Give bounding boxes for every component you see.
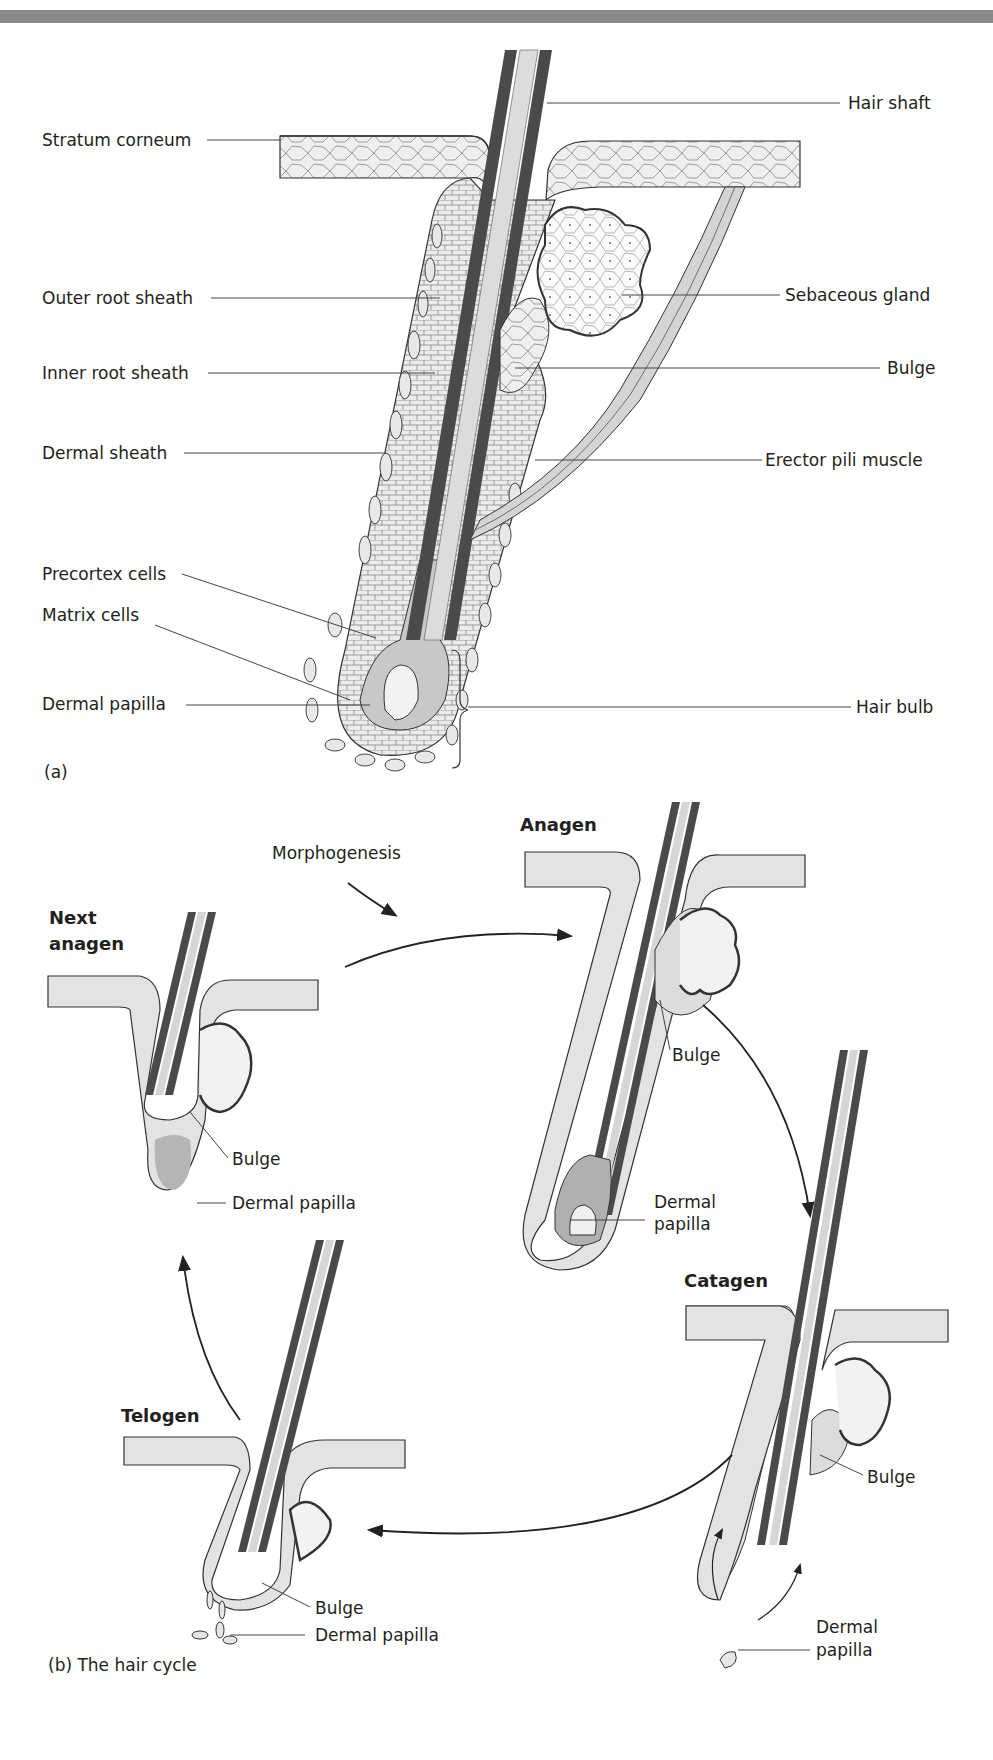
stage-catagen-title: Catagen (684, 1270, 768, 1292)
label-stratum-corneum: Stratum corneum (42, 130, 191, 150)
label-hair-bulb: Hair bulb (856, 697, 933, 717)
panel-a-tag: (a) (44, 762, 68, 782)
hair-follicle-diagram (0, 0, 993, 1760)
anagen-papilla-label-2: papilla (654, 1214, 711, 1234)
catagen-papilla-label-2: papilla (816, 1640, 873, 1660)
telogen-follicle (124, 1240, 405, 1644)
label-sebaceous-gland: Sebaceous gland (785, 285, 930, 305)
label-morphogenesis: Morphogenesis (272, 843, 401, 863)
catagen-bulge-label: Bulge (867, 1467, 915, 1487)
catagen-follicle (686, 1050, 948, 1668)
stage-next-anagen-title-1: Next (49, 907, 97, 929)
telogen-bulge-label: Bulge (315, 1598, 363, 1618)
label-inner-root-sheath: Inner root sheath (42, 363, 189, 383)
anagen-bulge-label: Bulge (672, 1045, 720, 1065)
next-anagen-papilla-label: Dermal papilla (232, 1193, 356, 1213)
label-dermal-sheath: Dermal sheath (42, 443, 167, 463)
label-bulge: Bulge (887, 358, 935, 378)
label-precortex-cells: Precortex cells (42, 564, 166, 584)
label-dermal-papilla: Dermal papilla (42, 694, 166, 714)
label-hair-shaft: Hair shaft (848, 93, 931, 113)
telogen-papilla-label: Dermal papilla (315, 1625, 439, 1645)
stage-next-anagen-title-2: anagen (49, 933, 124, 955)
catagen-papilla-label-1: Dermal (816, 1617, 878, 1637)
label-erector-pili-muscle: Erector pili muscle (765, 450, 923, 470)
label-outer-root-sheath: Outer root sheath (42, 288, 193, 308)
next-anagen-bulge-label: Bulge (232, 1149, 280, 1169)
stage-telogen-title: Telogen (121, 1405, 200, 1427)
panel-b-tag: (b) The hair cycle (48, 1655, 197, 1675)
anagen-papilla-label-1: Dermal (654, 1192, 716, 1212)
stage-anagen-title: Anagen (520, 814, 597, 836)
panel-a-follicle (280, 50, 800, 771)
label-matrix-cells: Matrix cells (42, 605, 139, 625)
